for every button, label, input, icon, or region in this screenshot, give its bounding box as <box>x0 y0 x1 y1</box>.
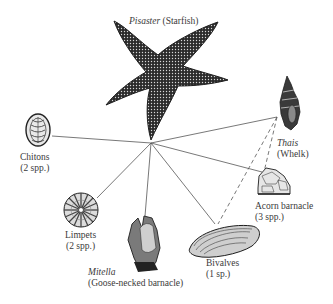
whelk-common-name: (Whelk) <box>277 149 309 160</box>
chitons-label: Chitons (2 spp.) <box>20 152 50 174</box>
limpet-icon <box>64 193 98 227</box>
link-starfish-limpets <box>97 143 151 198</box>
chitons-name: Chitons <box>20 152 50 163</box>
limpets-label: Limpets (2 spp.) <box>65 230 96 252</box>
acorn-barnacle-icon <box>258 168 290 194</box>
bivalves-count: (1 sp.) <box>206 269 239 280</box>
acorn-barnacle-label: Acorn barnacle (3 spp.) <box>255 201 313 223</box>
goose-necked-barnacle-icon <box>128 216 160 272</box>
mitella-genus: Mitella <box>88 267 183 278</box>
link-starfish-chitons <box>52 136 151 143</box>
mitella-label: Mitella (Goose-necked barnacle) <box>88 267 183 289</box>
link-starfish-acorn-barnacle <box>151 143 262 172</box>
acorn-barnacle-name: Acorn barnacle <box>255 201 313 212</box>
link-starfish-bivalves <box>151 143 215 224</box>
whelk-label: Thais (Whelk) <box>277 138 309 160</box>
starfish-label: Pisaster (Starfish) <box>129 16 198 27</box>
bivalve-icon <box>189 225 259 257</box>
starfish-common-name: (Starfish) <box>163 16 199 26</box>
limpets-name: Limpets <box>65 230 96 241</box>
whelk-icon <box>280 76 300 130</box>
mitella-common-name: (Goose-necked barnacle) <box>88 278 183 289</box>
whelk-genus: Thais <box>277 138 309 149</box>
limpets-count: (2 spp.) <box>65 241 96 252</box>
chiton-icon <box>26 114 50 146</box>
starfish-icon <box>106 21 228 140</box>
chitons-count: (2 spp.) <box>20 163 50 174</box>
acorn-barnacle-count: (3 spp.) <box>255 212 313 223</box>
link-starfish-mitella <box>145 143 151 216</box>
starfish-genus: Pisaster <box>129 16 160 26</box>
link-whelk-acorn-barnacle <box>264 117 277 172</box>
bivalves-name: Bivalves <box>206 258 239 269</box>
link-starfish-whelk <box>151 117 277 143</box>
bivalves-label: Bivalves (1 sp.) <box>206 258 239 280</box>
